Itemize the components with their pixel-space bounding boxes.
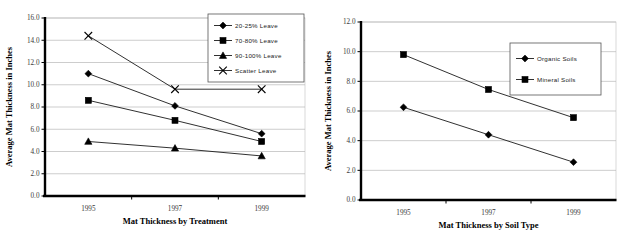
x-axis-title: Mat Thickness by Treatment	[123, 216, 228, 226]
y-tick-label: 0.0	[31, 192, 40, 200]
data-point-triangle	[85, 138, 92, 144]
legend-label-20-25-leave: 20-25% Leave	[235, 22, 278, 29]
y-tick-label: 10.0	[343, 48, 356, 56]
y-tick-label: 4.0	[347, 137, 356, 145]
series-organic-soils	[400, 104, 577, 166]
legend-label-organic-soils: Organic Soils	[537, 55, 577, 62]
data-point-square	[571, 115, 577, 121]
series-90-100-leave	[85, 138, 266, 159]
data-point-square	[401, 52, 407, 58]
chart-mat-thickness-by-soil-type: 0.02.04.06.08.010.012.0199519971999Organ…	[321, 0, 642, 249]
data-point-diamond	[485, 131, 492, 138]
data-point-diamond	[85, 70, 92, 77]
data-point-square	[85, 97, 91, 103]
x-tick-label-1999: 1999	[254, 205, 269, 213]
legend-label-90-100-leave: 90-100% Leave	[235, 52, 282, 59]
y-tick-label: 6.0	[347, 107, 356, 115]
chart-mat-thickness-by-treatment: 0.02.04.06.08.010.012.014.016.0199519971…	[0, 0, 321, 249]
data-point-cross	[85, 32, 93, 40]
y-tick-label: 6.0	[31, 126, 40, 134]
figure-pair: 0.02.04.06.08.010.012.014.016.0199519971…	[0, 0, 642, 249]
y-tick-label: 14.0	[27, 37, 40, 45]
y-tick-label: 2.0	[31, 170, 40, 178]
x-tick-label-1995: 1995	[81, 205, 96, 213]
x-tick-label-1999: 1999	[566, 209, 581, 217]
data-point-square	[259, 138, 265, 144]
data-point-diamond	[258, 130, 265, 137]
chart-canvas: 0.02.04.06.08.010.012.014.016.0199519971…	[0, 0, 321, 249]
y-tick-label: 10.0	[27, 81, 40, 89]
legend-label-mineral-soils: Mineral Soils	[537, 76, 576, 83]
y-tick-label: 8.0	[31, 103, 40, 111]
y-tick-label: 4.0	[31, 148, 40, 156]
y-axis-title: Average Mat Thickness in Inches	[323, 50, 333, 171]
x-tick-label-1997: 1997	[168, 205, 183, 213]
data-point-square	[172, 117, 178, 123]
data-point-diamond	[570, 159, 577, 166]
data-point-diamond	[400, 104, 407, 111]
legend: 20-25% Leave70-80% Leave90-100% LeaveSca…	[208, 14, 304, 82]
y-tick-label: 8.0	[347, 78, 356, 86]
legend-label-scatter-leave: Scatter Leave	[235, 67, 277, 74]
x-tick-label-1997: 1997	[481, 209, 496, 217]
legend-label-70-80-leave: 70-80% Leave	[235, 37, 278, 44]
data-point-square	[486, 86, 492, 92]
data-point-diamond	[172, 102, 179, 109]
data-point-square	[522, 77, 528, 83]
x-axis-title: Mat Thickness by Soil Type	[438, 220, 538, 230]
y-tick-label: 16.0	[27, 14, 40, 22]
y-tick-label: 12.0	[27, 59, 40, 67]
chart-canvas: 0.02.04.06.08.010.012.0199519971999Organ…	[321, 0, 642, 249]
y-tick-label: 2.0	[347, 167, 356, 175]
x-tick-label-1995: 1995	[396, 209, 411, 217]
y-tick-label: 0.0	[347, 196, 356, 204]
data-point-square	[220, 38, 226, 44]
y-axis-title: Average Mat Thickness in Inches	[4, 46, 14, 167]
legend: Organic SoilsMineral Soils	[510, 43, 601, 95]
y-tick-label: 12.0	[343, 18, 356, 26]
